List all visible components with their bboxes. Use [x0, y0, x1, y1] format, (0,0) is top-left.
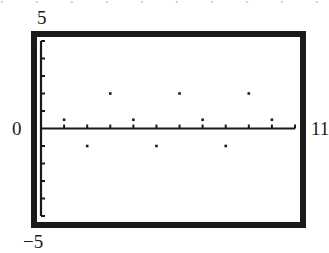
data-point — [63, 118, 66, 121]
data-point — [155, 145, 158, 148]
data-point — [271, 118, 274, 121]
data-points — [63, 92, 273, 147]
axes — [41, 41, 295, 216]
data-point — [224, 145, 227, 148]
data-point — [178, 92, 181, 95]
data-point — [132, 118, 135, 121]
data-point — [201, 118, 204, 121]
data-point — [109, 92, 112, 95]
data-point — [248, 92, 251, 95]
data-point — [86, 145, 89, 148]
